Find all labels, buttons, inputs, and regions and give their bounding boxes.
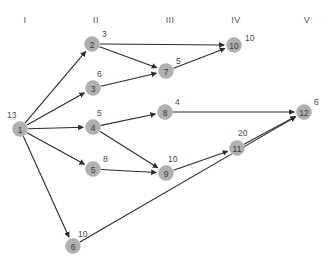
node-id-11: 11 <box>233 144 242 154</box>
network-graph: IIIIIIIVV 113233645586107584910101011201… <box>0 0 335 276</box>
diagram-canvas: IIIIIIIVV 113233645586107584910101011201… <box>0 0 335 276</box>
edge-1-to-3 <box>27 93 85 125</box>
node-id-5: 5 <box>91 165 96 175</box>
node-6[interactable]: 610 <box>66 229 88 254</box>
node-5[interactable]: 58 <box>86 154 109 177</box>
node-11[interactable]: 1120 <box>230 128 248 156</box>
node-1[interactable]: 113 <box>7 110 28 137</box>
node-value-label-7: 5 <box>176 56 181 66</box>
node-id-10: 10 <box>229 41 239 51</box>
node-id-3: 3 <box>91 84 96 94</box>
node-id-6: 6 <box>71 242 76 252</box>
edge-4-to-8 <box>101 114 156 125</box>
node-3[interactable]: 36 <box>86 69 103 96</box>
node-id-12: 12 <box>299 108 309 118</box>
node-value-label-3: 6 <box>97 69 102 79</box>
node-value-label-6: 10 <box>78 229 88 239</box>
edge-6-to-12 <box>80 117 296 242</box>
edge-1-to-5 <box>27 133 84 164</box>
node-id-9: 9 <box>164 169 169 179</box>
node-value-label-12: 6 <box>314 97 319 107</box>
nodes-layer: 11323364558610758491010101120126 <box>7 29 319 254</box>
edge-1-to-4 <box>28 127 83 129</box>
node-id-2: 2 <box>90 40 95 50</box>
node-id-1: 1 <box>18 125 23 135</box>
column-header-i: I <box>24 15 27 25</box>
node-id-7: 7 <box>164 67 169 77</box>
node-value-label-5: 8 <box>103 154 108 164</box>
node-7[interactable]: 75 <box>159 56 182 79</box>
node-id-8: 8 <box>163 108 168 118</box>
edge-5-to-9 <box>101 169 156 172</box>
node-12[interactable]: 126 <box>297 97 320 120</box>
column-header-iii: III <box>166 15 175 25</box>
column-header-iv: IV <box>231 15 240 25</box>
node-value-label-9: 10 <box>168 154 178 164</box>
column-header-v: V <box>304 15 310 25</box>
column-headers: IIIIIIIVV <box>24 15 311 25</box>
edge-2-to-10 <box>100 44 224 45</box>
node-value-label-4: 5 <box>97 108 102 118</box>
edge-2-to-7 <box>100 47 157 68</box>
edge-3-to-7 <box>101 73 157 86</box>
node-value-label-11: 20 <box>238 128 248 138</box>
node-9[interactable]: 910 <box>159 154 178 181</box>
node-value-label-8: 4 <box>175 97 180 107</box>
node-value-label-10: 10 <box>245 33 255 43</box>
column-header-ii: II <box>93 15 99 25</box>
node-4[interactable]: 45 <box>86 108 103 135</box>
node-value-label-2: 3 <box>102 29 107 39</box>
edge-1-to-2 <box>25 51 86 122</box>
node-8[interactable]: 84 <box>158 97 181 120</box>
edge-1-to-6 <box>23 136 69 237</box>
node-value-label-1: 13 <box>7 110 17 120</box>
node-10[interactable]: 1010 <box>227 33 255 53</box>
edge-7-to-10 <box>173 48 224 68</box>
edge-4-to-9 <box>100 131 158 168</box>
edge-11-to-12 <box>244 117 295 145</box>
node-id-4: 4 <box>91 123 96 133</box>
